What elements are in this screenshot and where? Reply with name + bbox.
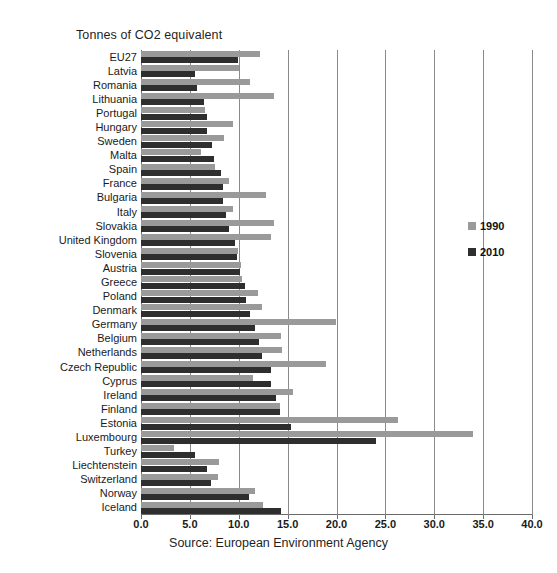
- bar-2010: [141, 339, 259, 345]
- category-label: Estonia: [1, 418, 137, 429]
- bar-1990: [141, 262, 241, 268]
- bar-2010: [141, 409, 280, 415]
- bar-1990: [141, 192, 266, 198]
- category-label: Switzerland: [1, 474, 137, 485]
- x-tick-label: 15.0: [277, 518, 298, 530]
- bar-2010: [141, 142, 212, 148]
- bar-1990: [141, 488, 255, 494]
- bar-2010: [141, 212, 226, 218]
- bar-2010: [141, 452, 195, 458]
- bar-1990: [141, 107, 205, 113]
- bar-2010: [141, 466, 207, 472]
- category-label: Slovakia: [1, 221, 137, 232]
- category-label: Italy: [1, 207, 137, 218]
- bar-1990: [141, 459, 219, 465]
- bar-2010: [141, 198, 223, 204]
- category-label: Latvia: [1, 66, 137, 77]
- bar-1990: [141, 206, 233, 212]
- x-axis-tick-labels: 0.05.010.015.020.025.030.035.040.0: [141, 518, 532, 534]
- bar-1990: [141, 431, 473, 437]
- category-label: Poland: [1, 291, 137, 302]
- category-axis-labels: EU27LatviaRomaniaLithuaniaPortugalHungar…: [0, 50, 137, 515]
- x-tick-mark: [434, 515, 435, 519]
- bar-2010: [141, 99, 204, 105]
- bar-2010: [141, 240, 235, 246]
- bar-1990: [141, 445, 174, 451]
- bar-2010: [141, 184, 223, 190]
- category-label: Luxembourg: [1, 432, 137, 443]
- legend-item[interactable]: 2010: [468, 242, 538, 268]
- x-tick-mark: [385, 515, 386, 519]
- bar-1990: [141, 319, 336, 325]
- bar-2010: [141, 395, 276, 401]
- bar-1990: [141, 51, 260, 57]
- bar-1990: [141, 417, 398, 423]
- chart-legend: 19902010: [468, 216, 538, 268]
- bar-1990: [141, 93, 274, 99]
- x-tick-label: 30.0: [424, 518, 445, 530]
- x-tick-label: 20.0: [326, 518, 347, 530]
- bar-2010: [141, 367, 271, 373]
- bar-1990: [141, 474, 218, 480]
- category-label: Germany: [1, 319, 137, 330]
- gridline: [288, 50, 289, 515]
- bar-2010: [141, 85, 197, 91]
- category-label: Iceland: [1, 502, 137, 513]
- bar-1990: [141, 290, 258, 296]
- gridline: [434, 50, 435, 515]
- bar-1990: [141, 164, 215, 170]
- bar-1990: [141, 178, 229, 184]
- gridline: [385, 50, 386, 515]
- category-label: Malta: [1, 150, 137, 161]
- bar-2010: [141, 57, 238, 63]
- gridline: [483, 50, 484, 515]
- category-label: Cyprus: [1, 376, 137, 387]
- source-caption: Source: European Environment Agency: [0, 536, 557, 550]
- plot-area: [141, 50, 434, 515]
- category-label: Sweden: [1, 136, 137, 147]
- bar-2010: [141, 381, 271, 387]
- x-tick-label: 40.0: [521, 518, 542, 530]
- bar-1990: [141, 149, 201, 155]
- bar-1990: [141, 135, 224, 141]
- bar-2010: [141, 170, 221, 176]
- bar-1990: [141, 403, 280, 409]
- bar-2010: [141, 114, 207, 120]
- category-label: France: [1, 178, 137, 189]
- legend-swatch-icon: [468, 248, 476, 256]
- category-label: Norway: [1, 488, 137, 499]
- bar-2010: [141, 128, 207, 134]
- x-tick-label: 5.0: [182, 518, 197, 530]
- category-label: Belgium: [1, 333, 137, 344]
- category-label: Netherlands: [1, 347, 137, 358]
- bar-1990: [141, 389, 293, 395]
- x-tick-label: 35.0: [472, 518, 493, 530]
- bar-1990: [141, 248, 238, 254]
- x-tick-label: 0.0: [133, 518, 148, 530]
- bar-2010: [141, 438, 376, 444]
- x-tick-mark: [239, 515, 240, 519]
- bar-2010: [141, 424, 291, 430]
- bar-1990: [141, 347, 282, 353]
- category-label: United Kingdom: [1, 235, 137, 246]
- category-label: Portugal: [1, 108, 137, 119]
- category-label: Finland: [1, 404, 137, 415]
- legend-item[interactable]: 1990: [468, 216, 538, 242]
- x-tick-mark: [190, 515, 191, 519]
- category-label: Bulgaria: [1, 192, 137, 203]
- bar-1990: [141, 304, 262, 310]
- category-label: Greece: [1, 277, 137, 288]
- bar-2010: [141, 297, 246, 303]
- bar-2010: [141, 494, 249, 500]
- bar-2010: [141, 226, 229, 232]
- bar-2010: [141, 269, 240, 275]
- category-label: Spain: [1, 164, 137, 175]
- bar-2010: [141, 353, 262, 359]
- category-label: Ireland: [1, 390, 137, 401]
- category-label: EU27: [1, 52, 137, 63]
- bar-1990: [141, 220, 274, 226]
- category-label: Czech Republic: [1, 362, 137, 373]
- x-tick-mark: [141, 515, 142, 519]
- legend-label: 2010: [480, 246, 504, 258]
- x-tick-mark: [337, 515, 338, 519]
